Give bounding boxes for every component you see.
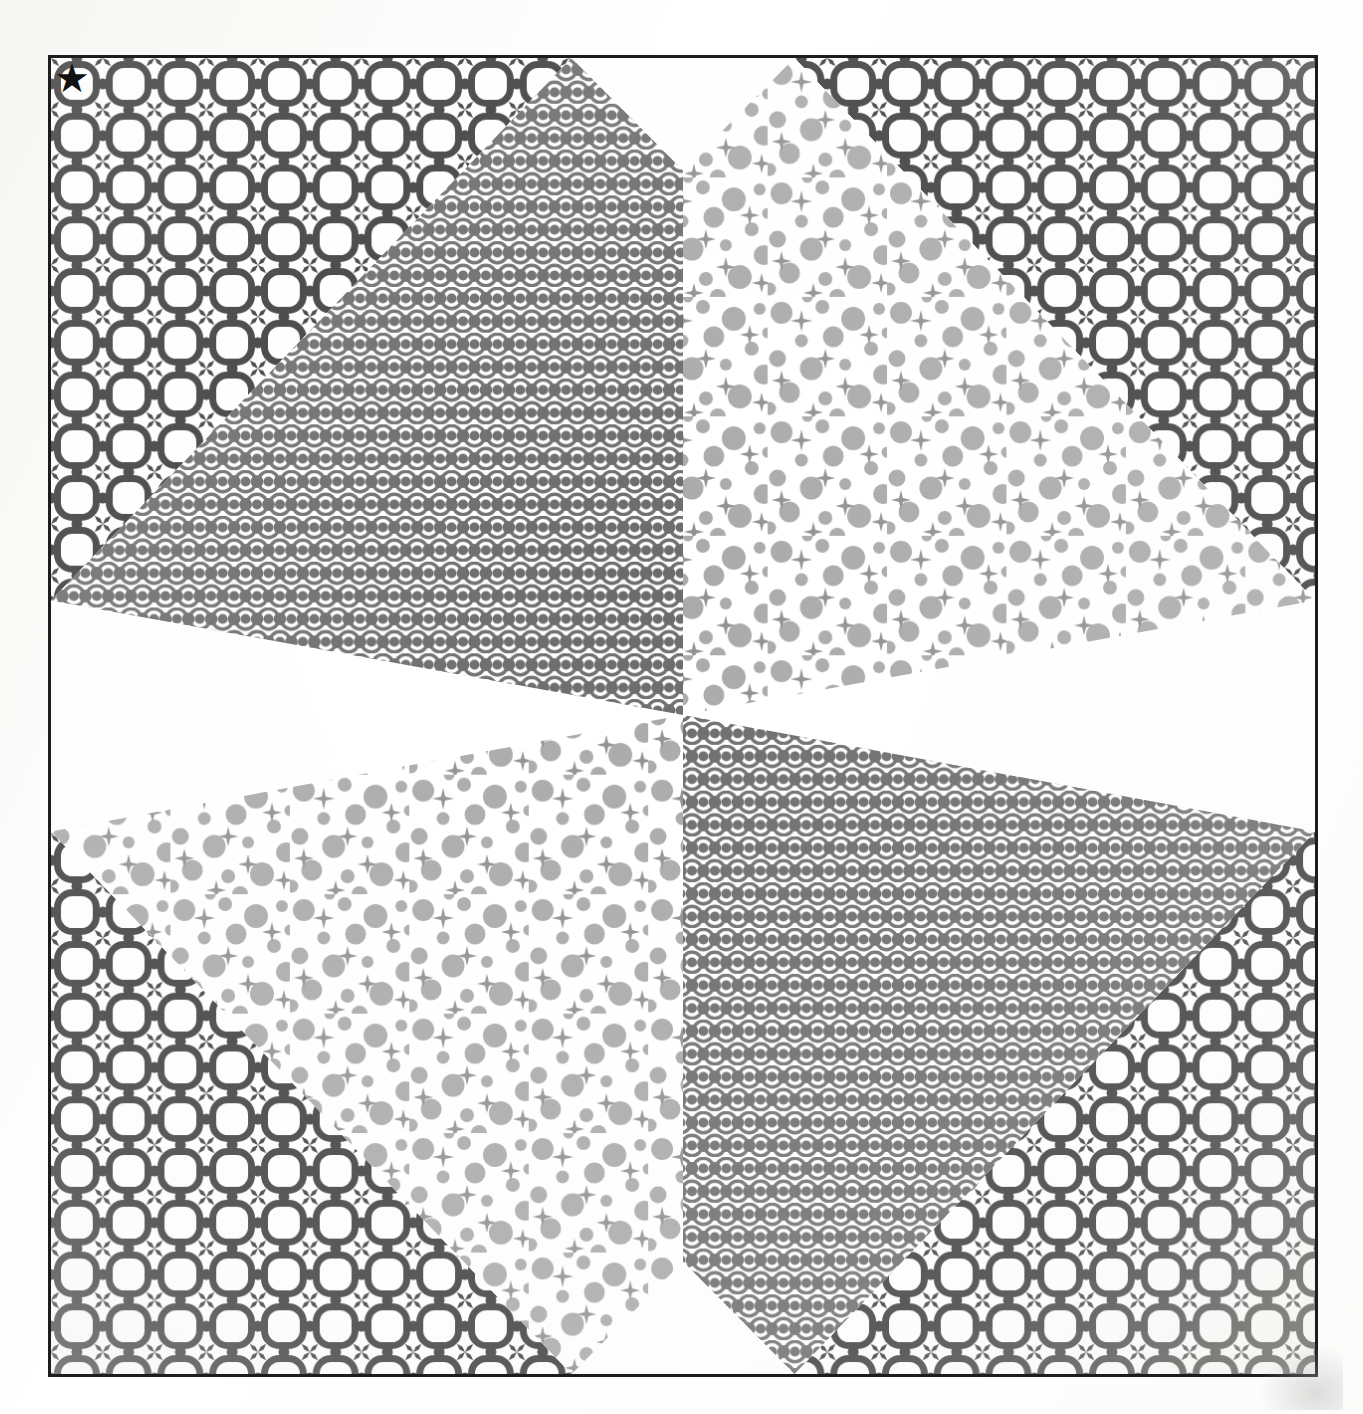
- scan-vignette: [51, 58, 1315, 1374]
- quilt-block-diagram: [51, 58, 1315, 1374]
- quilt-block-frame: [48, 55, 1318, 1377]
